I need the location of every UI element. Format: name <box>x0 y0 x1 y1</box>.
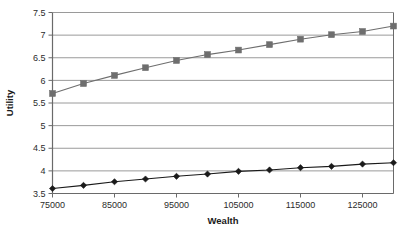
data-point-marker <box>298 36 304 42</box>
data-point-marker <box>112 72 118 78</box>
data-point-marker <box>236 47 242 53</box>
x-tick-label-0: 75000 <box>40 200 65 210</box>
y-axis-tick-labels: 3.544.555.566.577.5 <box>33 8 46 199</box>
x-tick-label-4: 115000 <box>286 200 315 210</box>
data-point-marker <box>81 81 87 87</box>
y-tick-label-1: 4 <box>40 166 45 176</box>
y-tick-label-0: 3.5 <box>33 189 46 199</box>
data-point-marker <box>267 42 273 48</box>
data-point-marker <box>360 29 366 35</box>
x-axis-title: Wealth <box>208 215 239 226</box>
x-tick-label-5: 125000 <box>347 200 377 210</box>
y-tick-label-5: 6 <box>40 76 45 86</box>
y-tick-label-6: 6.5 <box>33 53 46 63</box>
y-axis-title: Utility <box>4 89 15 116</box>
data-point-marker <box>205 52 211 58</box>
y-tick-label-4: 5.5 <box>33 98 46 108</box>
y-tick-label-8: 7.5 <box>33 8 46 18</box>
x-tick-label-2: 95000 <box>164 200 189 210</box>
x-tick-label-3: 105000 <box>223 200 253 210</box>
data-point-marker <box>143 65 149 71</box>
utility-wealth-line-chart: 3.544.555.566.577.5 75000850009500010500… <box>0 0 411 231</box>
data-point-marker <box>391 23 397 29</box>
chart-container: 3.544.555.566.577.5 75000850009500010500… <box>0 0 411 231</box>
data-point-marker <box>329 32 335 38</box>
x-axis-tick-labels: 750008500095000105000115000125000 <box>40 200 378 210</box>
y-tick-label-7: 7 <box>40 30 45 40</box>
data-point-marker <box>174 58 180 64</box>
y-tick-label-3: 5 <box>40 121 45 131</box>
data-point-marker <box>50 91 56 97</box>
y-tick-label-2: 4.5 <box>33 143 46 153</box>
x-tick-label-1: 85000 <box>102 200 127 210</box>
x-axis-ticks <box>53 194 363 198</box>
